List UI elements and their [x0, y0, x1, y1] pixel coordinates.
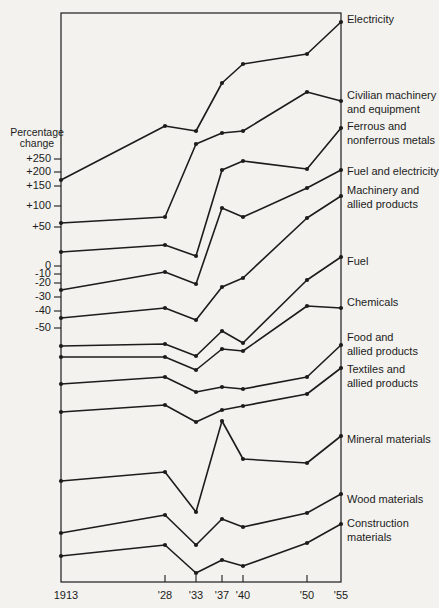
series-label: materials	[347, 531, 392, 543]
data-point-marker	[241, 129, 245, 133]
data-point-marker	[59, 479, 63, 483]
y-axis-tick-label: -40	[35, 304, 51, 316]
data-point-marker	[163, 355, 167, 359]
data-point-marker	[305, 186, 309, 190]
data-point-marker	[220, 558, 224, 562]
data-point-marker	[241, 387, 245, 391]
series-label: Electricity	[347, 13, 395, 25]
series-label: Chemicals	[347, 296, 399, 308]
data-point-marker	[220, 285, 224, 289]
data-point-marker	[339, 343, 343, 347]
data-point-marker	[59, 382, 63, 386]
data-point-marker	[305, 216, 309, 220]
data-point-marker	[59, 344, 63, 348]
data-point-marker	[339, 168, 343, 172]
data-point-marker	[305, 278, 309, 282]
data-point-marker	[163, 513, 167, 517]
data-point-marker	[241, 564, 245, 568]
data-point-marker	[163, 243, 167, 247]
data-point-marker	[194, 420, 198, 424]
data-point-marker	[194, 571, 198, 575]
series-label: Fuel	[347, 255, 368, 267]
x-axis-tick-label: '37	[215, 589, 229, 601]
x-axis-tick-label: 1913	[54, 589, 78, 601]
data-point-marker	[59, 288, 63, 292]
data-point-marker	[59, 355, 63, 359]
series-label: and equipment	[347, 103, 420, 115]
series-label: Machinery and	[347, 184, 419, 196]
series-label: nonferrous metals	[347, 134, 436, 146]
data-point-marker	[305, 52, 309, 56]
chart-figure: Percentagechange+250+200+150+100+500-10-…	[0, 0, 439, 608]
y-axis-tick-label: -30	[35, 290, 51, 302]
x-axis-tick-label: '40	[236, 589, 250, 601]
y-axis-tick-label: +250	[26, 152, 51, 164]
data-point-marker	[220, 81, 224, 85]
data-point-marker	[163, 215, 167, 219]
data-point-marker	[339, 255, 343, 259]
data-point-marker	[339, 522, 343, 526]
data-point-marker	[194, 129, 198, 133]
series-label: allied products	[347, 198, 418, 210]
data-point-marker	[194, 368, 198, 372]
data-point-marker	[339, 20, 343, 24]
data-point-marker	[241, 159, 245, 163]
data-point-marker	[59, 316, 63, 320]
data-point-marker	[220, 206, 224, 210]
data-point-marker	[220, 347, 224, 351]
series-label: Textiles and	[347, 363, 405, 375]
data-point-marker	[59, 410, 63, 414]
x-axis-tick-label: '33	[189, 589, 203, 601]
series-label: Civilian machinery	[347, 89, 437, 101]
data-point-marker	[241, 276, 245, 280]
data-point-marker	[241, 62, 245, 66]
data-point-marker	[339, 366, 343, 370]
x-axis-tick-label: '55	[334, 589, 348, 601]
data-point-marker	[241, 525, 245, 529]
data-point-marker	[305, 392, 309, 396]
y-axis-tick-label: -50	[35, 321, 51, 333]
data-point-marker	[339, 194, 343, 198]
data-point-marker	[194, 543, 198, 547]
data-point-marker	[194, 510, 198, 514]
data-point-marker	[305, 167, 309, 171]
data-point-marker	[339, 306, 343, 310]
data-point-marker	[220, 419, 224, 423]
y-axis-tick-label: +150	[26, 179, 51, 191]
data-point-marker	[305, 90, 309, 94]
chart-canvas: Percentagechange+250+200+150+100+500-10-…	[0, 0, 439, 608]
data-point-marker	[163, 270, 167, 274]
data-point-marker	[241, 341, 245, 345]
data-point-marker	[59, 531, 63, 535]
data-point-marker	[220, 131, 224, 135]
data-point-marker	[163, 375, 167, 379]
data-point-marker	[194, 254, 198, 258]
data-point-marker	[220, 329, 224, 333]
data-point-marker	[163, 403, 167, 407]
data-point-marker	[59, 178, 63, 182]
series-label: Food and	[347, 331, 393, 343]
data-point-marker	[163, 342, 167, 346]
data-point-marker	[339, 434, 343, 438]
data-point-marker	[339, 126, 343, 130]
x-axis-tick-label: '28	[158, 589, 172, 601]
data-point-marker	[220, 408, 224, 412]
data-point-marker	[339, 492, 343, 496]
y-axis-tick-label: +200	[26, 165, 51, 177]
data-point-marker	[194, 282, 198, 286]
data-point-marker	[194, 142, 198, 146]
data-point-marker	[305, 375, 309, 379]
data-point-marker	[194, 354, 198, 358]
x-axis-tick-label: '50	[300, 589, 314, 601]
series-label: allied products	[347, 345, 418, 357]
data-point-marker	[220, 168, 224, 172]
data-point-marker	[305, 511, 309, 515]
data-point-marker	[305, 304, 309, 308]
data-point-marker	[241, 404, 245, 408]
data-point-marker	[59, 221, 63, 225]
data-point-marker	[163, 124, 167, 128]
data-point-marker	[339, 99, 343, 103]
data-point-marker	[220, 517, 224, 521]
data-point-marker	[241, 215, 245, 219]
y-axis-title: change	[20, 137, 55, 149]
